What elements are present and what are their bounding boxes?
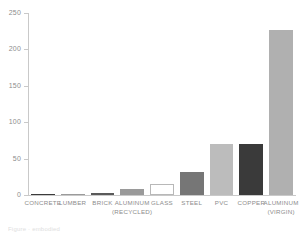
bar-glass[interactable] [150,184,174,195]
y-tick-250: 250 [0,13,28,14]
bar-slot [58,13,88,195]
y-tick-mark [24,195,28,196]
x-label-line2: (VIRGIN) [260,207,301,216]
bar-aluminum-virgin[interactable] [269,30,293,195]
y-tick-label: 150 [9,81,21,90]
figure-caption: Figure · embodied [8,226,148,234]
bar-slot [28,13,58,195]
y-tick-label: 100 [9,117,21,126]
bar-chart: 050100150200250 CONCRETELUMBERBRICKALUMI… [0,0,301,234]
y-tick-label: 200 [9,44,21,53]
y-tick-200: 200 [0,49,28,50]
x-label-aluminum-virgin: ALUMINUM(VIRGIN) [260,198,301,216]
y-tick-label: 250 [9,8,21,17]
bar-aluminum-recycled[interactable] [120,189,144,195]
bars-layer [28,13,296,195]
x-axis-line [28,195,296,196]
y-tick-150: 150 [0,86,28,87]
y-tick-0: 0 [0,195,28,196]
x-label-line2: (RECYCLED) [111,207,154,216]
bar-concrete[interactable] [31,194,55,195]
bar-slot [236,13,266,195]
bar-slot [207,13,237,195]
bar-slot [88,13,118,195]
x-label-line1: ALUMINUM [264,199,299,206]
bar-pvc[interactable] [210,144,234,195]
x-label-line1: BRICK [92,199,112,206]
y-tick-50: 50 [0,159,28,160]
bar-slot [117,13,147,195]
x-label-line1: STEEL [181,199,202,206]
x-axis-labels: CONCRETELUMBERBRICKALUMINUM(RECYCLED)GLA… [28,198,296,228]
bar-slot [147,13,177,195]
bar-slot [266,13,296,195]
bar-brick[interactable] [91,193,115,195]
x-label-line1: PVC [215,199,228,206]
y-tick-100: 100 [0,122,28,123]
bar-slot [177,13,207,195]
bar-lumber[interactable] [61,194,85,195]
bar-steel[interactable] [180,172,204,195]
bar-copper[interactable] [239,144,263,195]
y-tick-label: 50 [13,154,21,163]
y-tick-label: 0 [17,190,21,199]
